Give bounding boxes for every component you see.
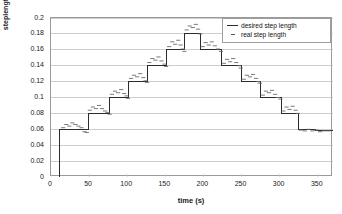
chart-figure: steplength (m) time (s) 00.020.040.060.0… bbox=[0, 0, 342, 214]
legend-item-real: real step length bbox=[226, 30, 327, 39]
y-tick-label: 0.18 bbox=[10, 29, 44, 36]
legend: desired step length real step length bbox=[222, 18, 331, 43]
legend-label: desired step length bbox=[241, 21, 297, 30]
x-tick-label: 300 bbox=[273, 180, 285, 187]
x-tick-label: 200 bbox=[197, 180, 209, 187]
x-axis-tick-labels: 050100150200250300350 bbox=[0, 180, 342, 192]
y-tick-label: 0.2 bbox=[10, 14, 44, 21]
y-tick-label: 0.12 bbox=[10, 77, 44, 84]
x-tick-marks bbox=[51, 174, 318, 177]
y-tick-label: 0.04 bbox=[10, 141, 44, 148]
x-tick-label: 100 bbox=[120, 180, 132, 187]
x-tick-label: 350 bbox=[311, 180, 323, 187]
y-tick-label: 0.1 bbox=[10, 93, 44, 100]
y-tick-label: 0.06 bbox=[10, 125, 44, 132]
legend-key-dash-marker-icon bbox=[226, 30, 239, 39]
y-tick-label: 0.02 bbox=[10, 157, 44, 164]
legend-label: real step length bbox=[241, 30, 286, 39]
y-tick-label: 0.16 bbox=[10, 45, 44, 52]
y-tick-label: 0.08 bbox=[10, 109, 44, 116]
y-axis-title: steplength (m) bbox=[2, 0, 9, 54]
x-tick-label: 50 bbox=[84, 180, 92, 187]
x-tick-label: 150 bbox=[158, 180, 170, 187]
y-tick-label: 0 bbox=[10, 173, 44, 180]
legend-item-desired: desired step length bbox=[226, 21, 327, 30]
y-tick-label: 0.14 bbox=[10, 61, 44, 68]
x-axis-title: time (s) bbox=[50, 196, 332, 205]
legend-key-solid-line-icon bbox=[226, 21, 239, 30]
x-tick-label: 0 bbox=[48, 180, 52, 187]
x-tick-label: 250 bbox=[235, 180, 247, 187]
